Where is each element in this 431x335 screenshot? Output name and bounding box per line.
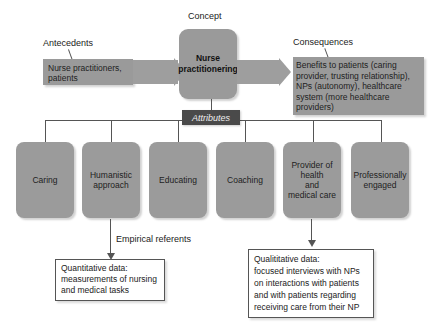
consequences-line: system (more healthcare: [296, 92, 424, 103]
antecedents-line1: Nurse practitioners,: [48, 63, 133, 73]
consequences-caption: Consequences: [293, 37, 353, 47]
concept-to-attributes-line: [211, 99, 212, 110]
consequences-line: provider, trusting relationship),: [296, 71, 424, 82]
attribute-drop-line: [245, 120, 246, 142]
attribute-professionally-engaged: Professionally engaged: [351, 142, 409, 218]
qualitative-arrow-line: [311, 219, 312, 242]
attributes-header: Attributes: [182, 110, 240, 125]
quantitative-line: measurements of nursing: [61, 274, 159, 285]
attribute-label: Humanistic: [90, 170, 132, 180]
attribute-coaching: Coaching: [216, 142, 274, 218]
consequences-arrowhead-icon: [279, 58, 291, 86]
antecedents-box: Nurse practitioners, patients: [43, 59, 133, 85]
attribute-drop-line: [313, 120, 314, 142]
attribute-caring: Caring: [16, 142, 74, 218]
qualitative-line: focused interviews with NPs: [254, 265, 368, 277]
arrow-down-icon: [308, 240, 316, 247]
attribute-drop-line: [381, 120, 382, 142]
attribute-drop-line: [45, 120, 46, 142]
qualitative-line: on interactions with patients: [254, 277, 368, 289]
attribute-drop-line: [178, 120, 179, 142]
consequences-arrow-shaft: [237, 60, 279, 84]
concept-title-line1: Nurse: [196, 53, 220, 64]
antecedents-line2: patients: [48, 73, 133, 83]
attribute-educating: Educating: [149, 142, 207, 218]
attribute-label: Provider of: [288, 160, 336, 170]
qualitative-line: Qualititative data:: [254, 253, 368, 265]
consequences-line: NPs (autonomy), healthcare: [296, 81, 424, 92]
attribute-label: and: [288, 180, 336, 190]
consequences-line: providers): [296, 102, 424, 113]
antecedents-caption: Antecedents: [43, 38, 93, 48]
attribute-label: health: [288, 170, 336, 180]
attribute-label: Coaching: [227, 175, 263, 185]
consequences-line: Benefits to patients (caring: [296, 60, 424, 71]
attribute-humanistic-approach: Humanistic approach: [82, 142, 140, 218]
attribute-provider-of-care: Provider of health and medical care: [283, 142, 341, 218]
concept-title-line2: practitionering: [178, 64, 238, 75]
attribute-drop-line: [111, 120, 112, 142]
attribute-label: medical care: [288, 190, 336, 200]
concept-box: Nurse practitionering: [179, 29, 237, 99]
quantitative-data-box: Quantitative data: measurements of nursi…: [55, 259, 165, 301]
attribute-label: Professionally: [354, 170, 407, 180]
qualitative-data-box: Qualititative data: focused interviews w…: [248, 249, 374, 318]
quantitative-arrow-line: [110, 219, 111, 256]
qualitative-line: receiving care from their NP: [254, 301, 368, 313]
consequences-box: Benefits to patients (caring provider, t…: [293, 57, 424, 115]
empirical-referents-caption: Empirical referents: [116, 234, 191, 244]
attribute-label: Caring: [32, 175, 57, 185]
concept-caption: Concept: [188, 11, 222, 21]
quantitative-line: and medical tasks: [61, 285, 159, 296]
qualitative-line: and with patients regarding: [254, 289, 368, 301]
attribute-label: Educating: [159, 175, 197, 185]
attribute-label: approach: [90, 180, 132, 190]
attribute-label: engaged: [354, 180, 407, 190]
antecedents-arrow-shaft: [133, 60, 178, 84]
quantitative-line: Quantitative data:: [61, 263, 159, 274]
